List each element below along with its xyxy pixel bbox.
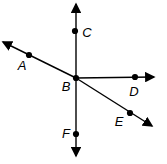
point-dot-D bbox=[132, 74, 138, 80]
point-label-B: B bbox=[62, 79, 71, 94]
point-dot-A bbox=[26, 52, 32, 58]
ray-B-toward-D bbox=[76, 77, 154, 78]
point-dot-C bbox=[72, 28, 78, 34]
ray-B-toward-A bbox=[3, 42, 76, 78]
point-dot-B bbox=[73, 75, 79, 81]
point-label-E: E bbox=[115, 114, 124, 129]
point-label-C: C bbox=[82, 25, 92, 40]
point-label-F: F bbox=[62, 126, 71, 141]
point-dot-E bbox=[127, 110, 133, 116]
geometry-figure: ABCDEF bbox=[0, 0, 167, 164]
point-label-A: A bbox=[17, 58, 27, 73]
geometry-diagram-svg: ABCDEF bbox=[0, 0, 167, 164]
point-dot-F bbox=[73, 131, 79, 137]
point-label-D: D bbox=[129, 84, 138, 99]
